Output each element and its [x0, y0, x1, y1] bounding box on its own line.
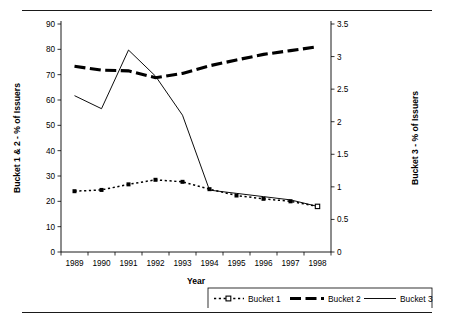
- chart-figure: 0102030405060708090 00.511.522.533.5 198…: [0, 12, 454, 308]
- x-axis-tick-label: 1998: [308, 259, 327, 268]
- right-axis-tick-label: 2.5: [337, 85, 349, 94]
- right-axis-ticks: [331, 24, 335, 252]
- left-axis-tick-label: 50: [46, 121, 56, 130]
- x-axis-tick-label: 1990: [92, 259, 111, 268]
- left-axis-tick-label: 90: [46, 20, 56, 29]
- top-divider-rule: [22, 10, 432, 11]
- bottom-divider-rule: [22, 312, 432, 313]
- x-axis-tick-label: 1994: [200, 259, 219, 268]
- series-marker-bucket-1: [315, 204, 319, 208]
- left-axis-title: Bucket 1 & 2 - % of Issuers: [12, 83, 22, 193]
- right-axis-tick-label: 0: [337, 248, 342, 257]
- left-axis-tick-label: 60: [46, 96, 56, 105]
- left-axis-tick-label: 40: [46, 147, 56, 156]
- legend-label-bucket-2: Bucket 2: [328, 294, 361, 304]
- series-markers-bucket-1: [73, 178, 320, 209]
- legend-label-bucket-3: Bucket 3: [400, 294, 433, 304]
- right-axis-tick-label: 2: [337, 118, 342, 127]
- series-marker-bucket-1: [154, 178, 158, 182]
- x-axis-tick-label: 1996: [254, 259, 273, 268]
- left-axis-tick-labels: 0102030405060708090: [46, 20, 56, 257]
- right-axis-tick-label: 0.5: [337, 215, 349, 224]
- x-axis-tick-label: 1991: [119, 259, 138, 268]
- x-axis-tick-label: 1993: [173, 259, 192, 268]
- x-axis-ticks: [61, 252, 331, 256]
- series-marker-bucket-1: [127, 182, 131, 186]
- series-marker-bucket-1: [208, 187, 212, 191]
- right-axis-tick-label: 3.5: [337, 20, 349, 29]
- series-marker-bucket-1: [235, 194, 239, 198]
- left-axis-ticks: [58, 24, 62, 252]
- series-marker-bucket-1: [181, 180, 185, 184]
- left-axis-tick-label: 70: [46, 71, 56, 80]
- series-marker-bucket-1: [289, 199, 293, 203]
- x-axis-title: Year: [187, 276, 206, 286]
- chart-page: 0102030405060708090 00.511.522.533.5 198…: [0, 0, 454, 325]
- series-line-bucket-2: [75, 47, 318, 78]
- right-axis-title: Bucket 3 - % of Issuers: [410, 91, 420, 185]
- left-axis-tick-label: 30: [46, 172, 56, 181]
- x-axis-tick-label: 1992: [146, 259, 165, 268]
- right-axis-tick-labels: 00.511.522.533.5: [337, 20, 349, 257]
- legend-frame: [208, 288, 432, 308]
- series-marker-bucket-1: [73, 189, 77, 193]
- series-line-bucket-1: [75, 180, 318, 207]
- right-axis-tick-label: 1: [337, 183, 342, 192]
- left-axis-tick-label: 20: [46, 197, 56, 206]
- x-axis-tick-labels: 1989199019911992199319941995199619971998: [65, 259, 327, 268]
- x-axis-tick-label: 1989: [65, 259, 84, 268]
- left-axis-tick-label: 80: [46, 45, 56, 54]
- left-axis-tick-label: 0: [50, 248, 55, 257]
- series-line-bucket-3: [75, 50, 318, 206]
- series-marker-bucket-1: [262, 197, 266, 201]
- x-axis-tick-label: 1997: [281, 259, 300, 268]
- legend-marker-bucket-1: [226, 296, 231, 301]
- right-axis-tick-label: 3: [337, 53, 342, 62]
- x-axis-tick-label: 1995: [227, 259, 246, 268]
- right-axis-tick-label: 1.5: [337, 150, 349, 159]
- line-chart: 0102030405060708090 00.511.522.533.5 198…: [0, 12, 454, 308]
- series-marker-bucket-1: [100, 188, 104, 192]
- legend-label-bucket-1: Bucket 1: [248, 294, 281, 304]
- chart-legend[interactable]: Bucket 1Bucket 2Bucket 3: [208, 288, 433, 308]
- left-axis-tick-label: 10: [46, 223, 56, 232]
